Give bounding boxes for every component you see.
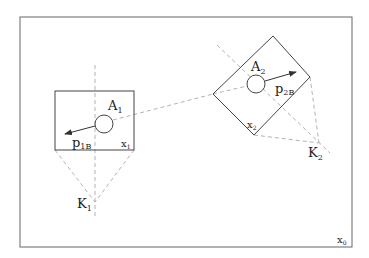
- body-1-circle: [95, 115, 113, 133]
- label-A2: A2: [250, 59, 265, 76]
- construction-lines: [55, 45, 330, 217]
- label-x1: x1: [121, 138, 130, 150]
- label-K2: K2: [308, 145, 323, 162]
- diagram-canvas: A1 p1B x1 K1 A2 p2B x2 K2 x0: [0, 0, 369, 258]
- label-x0: x0: [337, 234, 347, 246]
- label-p2B: p2B: [275, 81, 294, 97]
- body-2: A2 p2B x2 K2: [213, 36, 323, 162]
- world-frame: [20, 17, 352, 247]
- body-1: A1 p1B x1 K1: [55, 91, 134, 213]
- label-x2: x2: [247, 119, 257, 131]
- label-K1: K1: [77, 196, 92, 213]
- p1b-arrow: [65, 126, 95, 134]
- p2b-arrow: [265, 72, 296, 81]
- label-A1: A1: [107, 98, 122, 115]
- body-2-circle: [247, 75, 265, 93]
- label-p1B: p1B: [72, 135, 91, 151]
